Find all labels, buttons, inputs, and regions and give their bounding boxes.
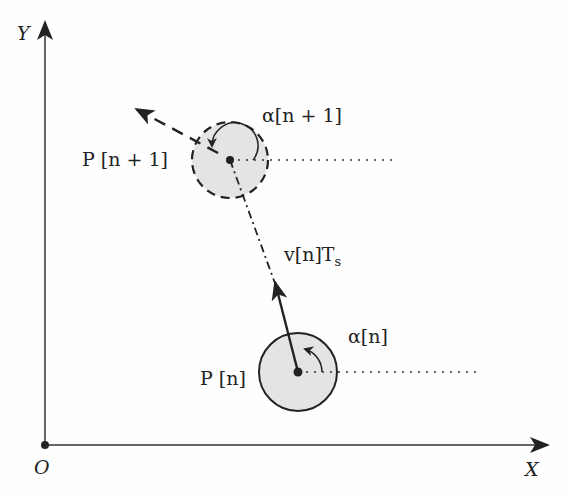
current-center-dot [294, 368, 303, 377]
current-angle-label: α[n] [348, 325, 388, 347]
displacement-label-main: v[n]T [284, 243, 334, 265]
displacement-label: v[n]Ts [284, 243, 341, 269]
next-angle-label: α[n + 1] [262, 104, 342, 126]
diagram-graphics [0, 0, 566, 496]
origin-dot [41, 441, 49, 449]
diagram-canvas: Y X O P [n + 1] α[n + 1] v[n]Ts α[n] P [… [0, 0, 566, 496]
origin-label: O [34, 456, 50, 478]
displacement-label-subscript: s [334, 254, 341, 269]
current-position-label: P [n] [200, 367, 246, 389]
x-axis-label: X [525, 458, 539, 480]
next-position-label: P [n + 1] [82, 148, 168, 170]
y-axis-label: Y [17, 22, 30, 44]
